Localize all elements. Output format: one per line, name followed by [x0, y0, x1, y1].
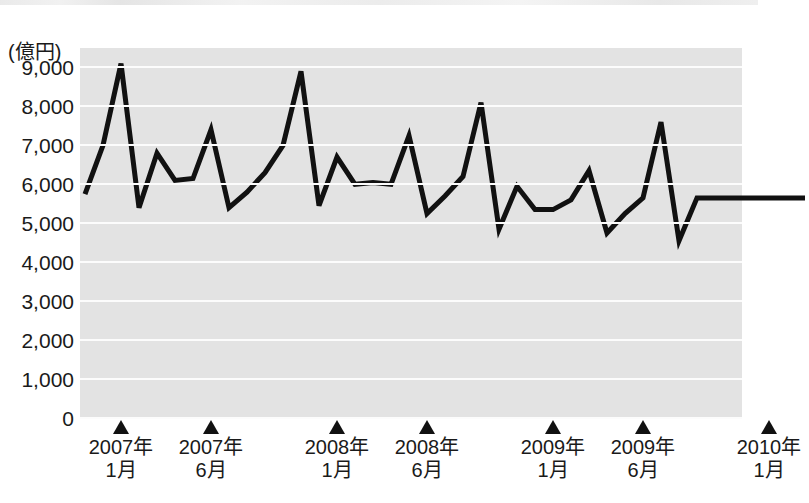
x-axis-tick-month: 6月: [151, 459, 271, 482]
triangle-up-icon: [113, 420, 129, 434]
triangle-up-icon: [545, 420, 561, 434]
x-axis-tick-2008年6月: 2008年6月: [367, 420, 487, 482]
x-axis-tick-year: 2008年: [367, 436, 487, 459]
triangle-up-icon: [329, 420, 345, 434]
x-axis-tick-year: 2010年: [709, 436, 809, 459]
x-axis-tick-year: 2007年: [151, 436, 271, 459]
x-axis-tick-2010年1月: 2010年1月: [709, 420, 809, 482]
x-axis-tick-2007年6月: 2007年6月: [151, 420, 271, 482]
x-axis-tick-month: 6月: [583, 459, 703, 482]
x-axis-tick-month: 1月: [709, 459, 809, 482]
triangle-up-icon: [635, 420, 651, 434]
triangle-up-icon: [761, 420, 777, 434]
triangle-up-icon: [203, 420, 219, 434]
x-axis-tick-year: 2009年: [583, 436, 703, 459]
x-axis-tick-month: 6月: [367, 459, 487, 482]
triangle-up-icon: [419, 420, 435, 434]
x-axis-tick-2009年6月: 2009年6月: [583, 420, 703, 482]
